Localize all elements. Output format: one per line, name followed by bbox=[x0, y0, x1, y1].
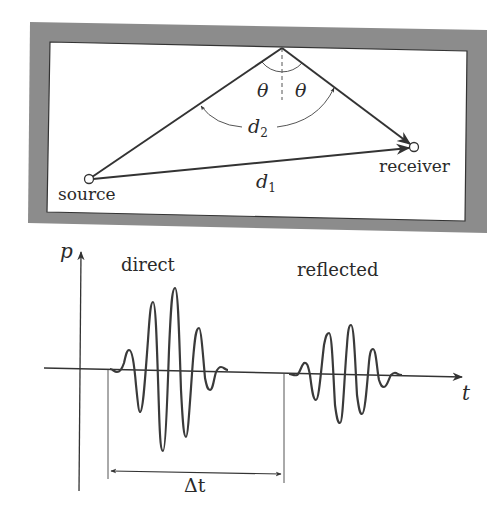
delay-label: Δt bbox=[184, 474, 206, 496]
receiver-marker bbox=[410, 143, 419, 152]
source-label: source bbox=[58, 184, 116, 204]
acoustic-reflection-diagram: θ θ d2 d1 source receiver p t direct ref… bbox=[0, 0, 502, 518]
x-axis-label: t bbox=[462, 381, 471, 405]
direct-label: direct bbox=[121, 254, 176, 275]
angle-label-left: θ bbox=[257, 79, 269, 101]
receiver-label: receiver bbox=[379, 156, 451, 176]
y-axis-label: p bbox=[60, 239, 73, 263]
pressure-time-plot: p t direct reflected Δt bbox=[44, 239, 471, 496]
angle-label-right: θ bbox=[295, 79, 307, 101]
room-diagram: θ θ d2 d1 source receiver bbox=[28, 22, 487, 233]
reflected-label: reflected bbox=[297, 259, 378, 280]
y-axis bbox=[79, 252, 81, 491]
source-marker bbox=[85, 175, 94, 184]
